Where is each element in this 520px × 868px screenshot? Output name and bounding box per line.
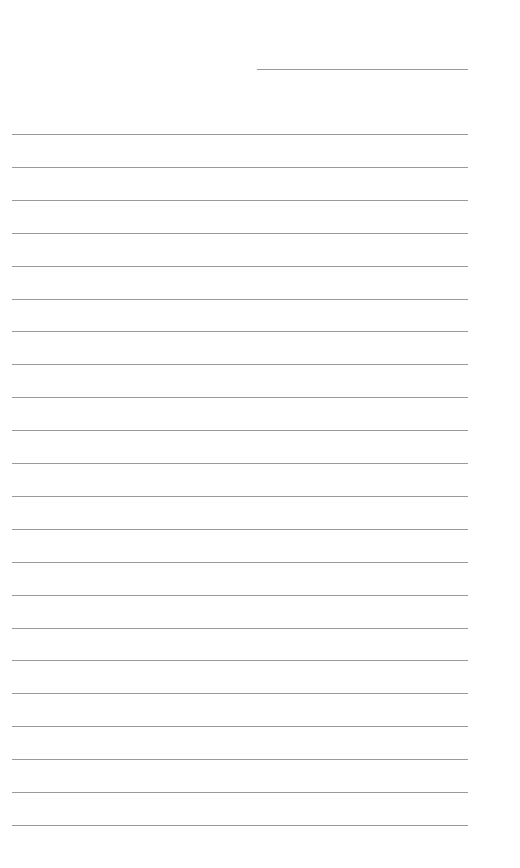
ruled-line [12,430,468,431]
ruled-line [12,693,468,694]
ruled-line [12,660,468,661]
ruled-line [12,496,468,497]
ruled-line [12,759,468,760]
ruled-line [12,299,468,300]
header-write-line [257,69,468,70]
lined-page [0,0,520,868]
ruled-line [12,529,468,530]
ruled-line [12,463,468,464]
ruled-line [12,792,468,793]
ruled-line [12,167,468,168]
ruled-line [12,562,468,563]
ruled-line [12,364,468,365]
ruled-line [12,628,468,629]
ruled-line [12,331,468,332]
ruled-line [12,726,468,727]
ruled-line [12,200,468,201]
ruled-line [12,233,468,234]
ruled-line [12,595,468,596]
ruled-line [12,134,468,135]
ruled-line [12,397,468,398]
ruled-line [12,825,468,826]
ruled-line [12,266,468,267]
